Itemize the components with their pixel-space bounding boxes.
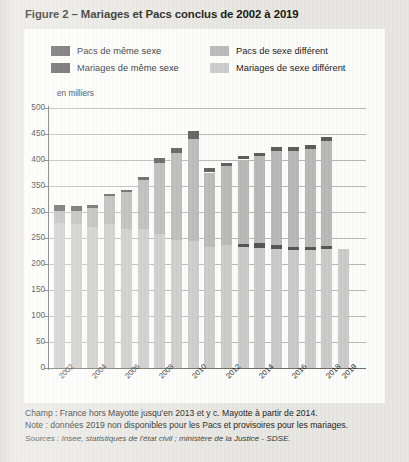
legend-swatch-mariages-meme-sexe — [51, 63, 70, 73]
bar-segment-2015-mariages-de-m-me-sexe — [271, 245, 282, 249]
bar-segment-2019-mariages-de-sexe-diff-rent — [338, 249, 349, 368]
bar-segment-2006-pacs-de-m-me-sexe — [121, 190, 132, 193]
plot-area: 050100150200250300350400450500 200220042… — [48, 108, 368, 368]
note-sources: Sources : Insee, statistiques de l'état … — [25, 432, 397, 445]
bar-segment-2009-pacs-de-m-me-sexe — [171, 148, 182, 153]
bar-segment-2011-mariages-de-sexe-diff-rent — [204, 247, 215, 368]
legend-label-pacs-meme-sexe: Pacs de même sexe — [77, 46, 161, 56]
bar-segment-2002-pacs-de-m-me-sexe — [54, 205, 65, 211]
bar-segment-2008-pacs-de-sexe-diff-rent — [154, 163, 165, 234]
bar-segment-2008-mariages-de-sexe-diff-rent — [154, 234, 165, 368]
bar-segment-2003-pacs-de-m-me-sexe — [71, 206, 82, 211]
bar-2010 — [188, 131, 199, 368]
bar-2016 — [288, 147, 299, 368]
bar-segment-2011-pacs-de-m-me-sexe — [204, 168, 215, 172]
bar-segment-2015-mariages-de-sexe-diff-rent — [271, 249, 282, 368]
y-axis-label-0: 0 — [0, 363, 45, 372]
y-axis-label-250: 250 — [0, 233, 45, 242]
bar-segment-2014-mariages-de-m-me-sexe — [254, 243, 265, 248]
bar-2013 — [238, 156, 249, 368]
bar-segment-2005-mariages-de-sexe-diff-rent — [104, 224, 115, 368]
bar-series-group — [48, 108, 368, 368]
bar-segment-2018-pacs-de-sexe-diff-rent — [321, 141, 332, 246]
bar-2011 — [204, 168, 215, 368]
page-title: Figure 2 – Mariages et Pacs conclus de 2… — [25, 8, 385, 20]
figure-container: Figure 2 – Mariages et Pacs conclus de 2… — [0, 0, 409, 462]
bar-segment-2005-pacs-de-sexe-diff-rent — [104, 196, 115, 224]
bar-segment-2008-pacs-de-m-me-sexe — [154, 158, 165, 163]
y-axis-label-350: 350 — [0, 181, 45, 190]
legend-item-mariages-meme-sexe: Mariages de même sexe — [51, 59, 179, 76]
legend-swatch-mariages-sexe-different — [210, 63, 229, 73]
bar-segment-2016-mariages-de-sexe-diff-rent — [288, 250, 299, 368]
bar-segment-2012-mariages-de-sexe-diff-rent — [221, 245, 232, 368]
bar-segment-2007-mariages-de-sexe-diff-rent — [138, 229, 149, 368]
bar-2015 — [271, 147, 282, 368]
bar-2003 — [71, 206, 82, 368]
bar-segment-2003-mariages-de-sexe-diff-rent — [71, 224, 82, 368]
bar-segment-2012-pacs-de-sexe-diff-rent — [221, 166, 232, 245]
legend-column-right: Pacs de sexe différent Mariages de sexe … — [210, 42, 345, 76]
bar-2004 — [87, 205, 98, 368]
bar-2009 — [171, 148, 182, 368]
y-axis-label-100: 100 — [0, 311, 45, 320]
bar-segment-2014-pacs-de-sexe-diff-rent — [254, 156, 265, 243]
bar-segment-2014-mariages-de-sexe-diff-rent — [254, 248, 265, 368]
legend-item-pacs-meme-sexe: Pacs de même sexe — [51, 42, 179, 59]
legend-item-pacs-sexe-different: Pacs de sexe différent — [210, 42, 345, 59]
bar-segment-2004-pacs-de-m-me-sexe — [87, 205, 98, 208]
legend-swatch-pacs-meme-sexe — [51, 46, 70, 56]
bar-2005 — [104, 194, 115, 368]
bar-segment-2009-pacs-de-sexe-diff-rent — [171, 153, 182, 240]
legend-label-mariages-meme-sexe: Mariages de même sexe — [77, 63, 179, 73]
bar-segment-2012-pacs-de-m-me-sexe — [221, 163, 232, 167]
legend-swatch-pacs-sexe-different — [210, 46, 229, 56]
bar-segment-2013-mariages-de-sexe-diff-rent — [238, 247, 249, 368]
note-disponibilite: Note : données 2019 non disponibles pour… — [25, 419, 397, 431]
bar-segment-2016-mariages-de-m-me-sexe — [288, 247, 299, 251]
note-champ: Champ : France hors Mayotte jusqu'en 201… — [25, 407, 397, 419]
bar-segment-2010-mariages-de-sexe-diff-rent — [188, 241, 199, 368]
bar-segment-2014-pacs-de-m-me-sexe — [254, 153, 265, 156]
y-axis-label-500: 500 — [0, 103, 45, 112]
bar-segment-2016-pacs-de-m-me-sexe — [288, 147, 299, 151]
bar-segment-2009-mariages-de-sexe-diff-rent — [171, 240, 182, 368]
bar-segment-2007-pacs-de-m-me-sexe — [138, 177, 149, 180]
bar-2008 — [154, 158, 165, 368]
bar-2014 — [254, 153, 265, 368]
bar-segment-2006-mariages-de-sexe-diff-rent — [121, 229, 132, 368]
bar-segment-2010-pacs-de-sexe-diff-rent — [188, 139, 199, 241]
bar-segment-2002-pacs-de-sexe-diff-rent — [54, 211, 65, 223]
legend-item-mariages-sexe-different: Mariages de sexe différent — [210, 59, 345, 76]
bar-segment-2011-pacs-de-sexe-diff-rent — [204, 173, 215, 248]
legend-label-mariages-sexe-different: Mariages de sexe différent — [236, 63, 345, 73]
bar-segment-2017-mariages-de-sexe-diff-rent — [305, 250, 316, 368]
bar-segment-2013-pacs-de-sexe-diff-rent — [238, 160, 249, 244]
bar-segment-2018-mariages-de-m-me-sexe — [321, 246, 332, 249]
bar-segment-2006-pacs-de-sexe-diff-rent — [121, 192, 132, 229]
bar-segment-2002-mariages-de-sexe-diff-rent — [54, 223, 65, 368]
legend-label-pacs-sexe-different: Pacs de sexe différent — [236, 46, 328, 56]
legend-column-left: Pacs de même sexe Mariages de même sexe — [51, 42, 179, 76]
chart-legend: Pacs de même sexe Mariages de même sexe … — [24, 37, 385, 81]
y-axis-caption: en milliers — [57, 89, 94, 98]
bar-segment-2013-pacs-de-m-me-sexe — [238, 156, 249, 159]
bar-segment-2017-mariages-de-m-me-sexe — [305, 247, 316, 251]
y-axis-label-200: 200 — [0, 259, 45, 268]
chart-notes: Champ : France hors Mayotte jusqu'en 201… — [25, 407, 397, 445]
bar-segment-2005-pacs-de-m-me-sexe — [104, 194, 115, 197]
bar-segment-2015-pacs-de-sexe-diff-rent — [271, 151, 282, 245]
y-axis-label-400: 400 — [0, 155, 45, 164]
bar-segment-2004-mariages-de-sexe-diff-rent — [87, 227, 98, 368]
bar-segment-2017-pacs-de-m-me-sexe — [305, 145, 316, 149]
bar-segment-2004-pacs-de-sexe-diff-rent — [87, 208, 98, 227]
bar-segment-2018-mariages-de-sexe-diff-rent — [321, 249, 332, 368]
bar-segment-2013-mariages-de-m-me-sexe — [238, 244, 249, 248]
bar-segment-2017-pacs-de-sexe-diff-rent — [305, 149, 316, 247]
bar-2018 — [321, 137, 332, 368]
bar-segment-2018-pacs-de-m-me-sexe — [321, 137, 332, 142]
bar-segment-2007-pacs-de-sexe-diff-rent — [138, 180, 149, 229]
y-axis-label-300: 300 — [0, 207, 45, 216]
bar-segment-2016-pacs-de-sexe-diff-rent — [288, 151, 299, 247]
x-axis-labels: 2002200420062008201020122014201620182019 — [48, 370, 368, 410]
